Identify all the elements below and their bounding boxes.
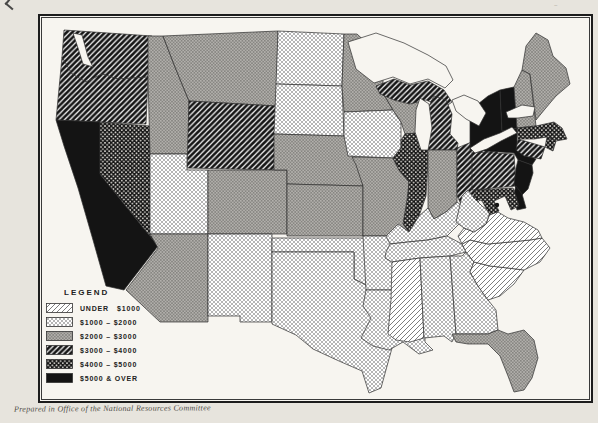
legend-row: $2000 – $3000 bbox=[46, 329, 176, 343]
state-nd bbox=[276, 31, 344, 86]
legend-row: $3000 – $4000 bbox=[46, 343, 176, 357]
legend-row: $4000 – $5000 bbox=[46, 357, 176, 371]
legend-label: $1000 – $2000 bbox=[80, 319, 137, 326]
legend: LEGEND UNDER $1000 $1000 – $2000 $2000 –… bbox=[46, 288, 176, 385]
legend-label: UNDER $1000 bbox=[80, 305, 141, 312]
legend-swatch-under-1000 bbox=[46, 303, 73, 313]
legend-label: $3000 – $4000 bbox=[80, 347, 137, 354]
legend-row: $5000 & OVER bbox=[46, 371, 176, 385]
state-ms bbox=[388, 258, 424, 342]
state-fl bbox=[452, 330, 538, 392]
legend-title: LEGEND bbox=[64, 288, 176, 297]
legend-label: $2000 – $3000 bbox=[80, 333, 137, 340]
state-nm bbox=[208, 234, 272, 322]
legend-label: $5000 & OVER bbox=[80, 375, 138, 382]
state-ks bbox=[287, 184, 363, 236]
legend-label: $4000 – $5000 bbox=[80, 361, 137, 368]
state-pa bbox=[472, 152, 516, 190]
legend-swatch-1000-2000 bbox=[46, 317, 73, 327]
washington-dc-marker bbox=[495, 203, 499, 207]
legend-swatch-3000-4000 bbox=[46, 345, 73, 355]
legend-row: $1000 – $2000 bbox=[46, 315, 176, 329]
scanned-map-photo: { "figure": { "type": "choropleth-map", … bbox=[0, 0, 598, 423]
legend-swatch-4000-5000 bbox=[46, 359, 73, 369]
state-sd bbox=[274, 84, 344, 136]
legend-swatch-5000-over bbox=[46, 373, 73, 383]
state-wy bbox=[187, 101, 276, 170]
lake-huron bbox=[452, 95, 486, 126]
map-caption: Prepared in Office of the National Resou… bbox=[14, 403, 211, 413]
state-al bbox=[420, 256, 456, 342]
state-co bbox=[208, 170, 287, 234]
legend-swatch-2000-3000 bbox=[46, 331, 73, 341]
state-ia bbox=[344, 110, 401, 158]
legend-row: UNDER $1000 bbox=[46, 301, 176, 315]
